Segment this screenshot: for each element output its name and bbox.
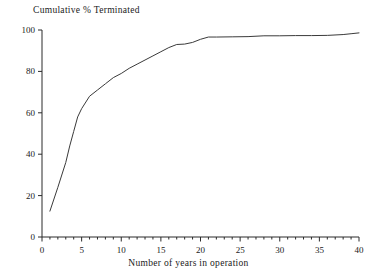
x-tick-label: 20 bbox=[196, 245, 205, 255]
y-tick-label: 40 bbox=[26, 149, 35, 159]
y-tick-label: 80 bbox=[26, 66, 35, 76]
y-tick-label: 0 bbox=[31, 232, 36, 242]
x-tick-label: 10 bbox=[117, 245, 126, 255]
x-tick-label: 15 bbox=[156, 245, 165, 255]
x-tick-label: 40 bbox=[355, 245, 364, 255]
x-tick-label: 30 bbox=[275, 245, 284, 255]
x-tick-label: 35 bbox=[315, 245, 324, 255]
y-tick-label: 20 bbox=[26, 191, 35, 201]
chart-container: Cumulative % Terminated 020406080100 051… bbox=[0, 0, 377, 279]
y-tick-label: 60 bbox=[26, 108, 35, 118]
data-series-line bbox=[50, 33, 359, 211]
x-tick-label: 0 bbox=[40, 245, 45, 255]
y-tick-label: 100 bbox=[22, 25, 36, 35]
x-axis-title: Number of years in operation bbox=[0, 258, 377, 268]
axis-lines bbox=[42, 30, 359, 237]
chart-plot-area bbox=[0, 0, 377, 279]
x-tick-label: 5 bbox=[79, 245, 84, 255]
y-axis-ticks bbox=[38, 30, 42, 237]
x-tick-label: 25 bbox=[236, 245, 245, 255]
